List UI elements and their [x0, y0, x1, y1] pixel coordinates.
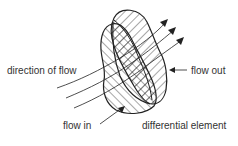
- label-differential-element: differential element: [142, 121, 226, 131]
- flow-in-arrow: [100, 106, 125, 124]
- label-direction-of-flow: direction of flow: [7, 66, 76, 76]
- flow-out-arrow: [169, 67, 187, 73]
- label-flow-out: flow out: [191, 66, 225, 76]
- label-flow-in: flow in: [63, 121, 91, 131]
- diagram-canvas: direction of flow flow out flow in diffe…: [0, 0, 238, 146]
- streamline-arrowheads: [160, 19, 184, 45]
